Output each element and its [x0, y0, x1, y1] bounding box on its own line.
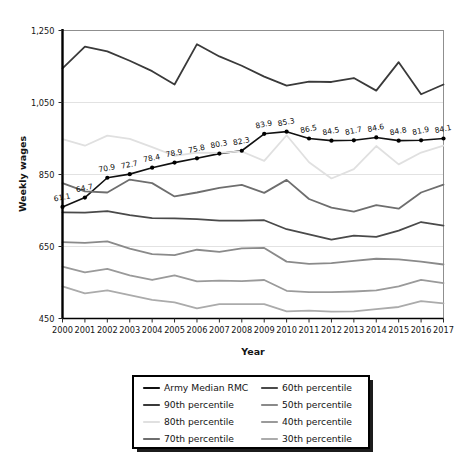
x-tick-label: 2016 [411, 325, 432, 335]
x-tick-label: 2017 [433, 325, 454, 335]
x-tick-label: 2010 [276, 325, 297, 335]
x-tick-label: 2000 [52, 325, 73, 335]
x-tick-label: 2011 [299, 325, 320, 335]
x-tick-label: 2004 [142, 325, 163, 335]
x-tick-label: 2013 [343, 325, 364, 335]
legend-label-70th-percentile: 70th percentile [164, 433, 234, 444]
data-point-marker [262, 132, 266, 136]
x-tick-label: 2008 [231, 325, 252, 335]
y-tick-label: 1,050 [31, 98, 54, 108]
data-point-marker [307, 136, 311, 140]
y-tick-label: 1,250 [31, 26, 54, 36]
legend-label-army-median-rmc: Army Median RMC [164, 382, 248, 393]
data-point-marker [172, 161, 176, 165]
y-tick-label: 450 [39, 314, 55, 324]
data-point-marker [128, 172, 132, 176]
x-tick-label: 2014 [366, 325, 387, 335]
y-tick-label: 850 [39, 170, 55, 180]
x-tick-label: 2009 [254, 325, 275, 335]
data-point-marker [195, 156, 199, 160]
legend-label-90th-percentile: 90th percentile [164, 399, 234, 410]
legend-label-80th-percentile: 80th percentile [164, 416, 234, 427]
x-tick-label: 2007 [209, 325, 230, 335]
legend-label-30th-percentile: 30th percentile [282, 433, 352, 444]
data-point-marker [441, 136, 445, 140]
data-point-marker [419, 138, 423, 142]
chart-figure: 61.164.770.972.778.478.975.880.382.383.9… [0, 0, 462, 461]
x-tick-label: 2002 [97, 325, 118, 335]
data-point-marker [150, 166, 154, 170]
x-tick-label: 2003 [119, 325, 140, 335]
data-point-marker [105, 176, 109, 180]
x-tick-label: 2006 [187, 325, 208, 335]
data-point-marker [397, 139, 401, 143]
data-point-marker [329, 139, 333, 143]
legend-label-40th-percentile: 40th percentile [282, 416, 352, 427]
legend-label-50th-percentile: 50th percentile [282, 399, 352, 410]
x-tick-label: 2012 [321, 325, 342, 335]
y-axis-title: Weekly wages [17, 136, 28, 213]
x-tick-label: 2005 [164, 325, 185, 335]
x-tick-label: 2001 [74, 325, 95, 335]
data-point-marker [83, 195, 87, 199]
line-chart: 61.164.770.972.778.478.975.880.382.383.9… [0, 0, 462, 461]
data-point-marker [285, 130, 289, 134]
legend-label-60th-percentile: 60th percentile [282, 382, 352, 393]
data-point-marker [240, 149, 244, 153]
data-point-marker [352, 138, 356, 142]
x-tick-label: 2015 [388, 325, 409, 335]
data-point-marker [374, 135, 378, 139]
y-tick-label: 650 [39, 242, 55, 252]
data-point-marker [217, 152, 221, 156]
x-axis-title: Year [240, 346, 265, 357]
